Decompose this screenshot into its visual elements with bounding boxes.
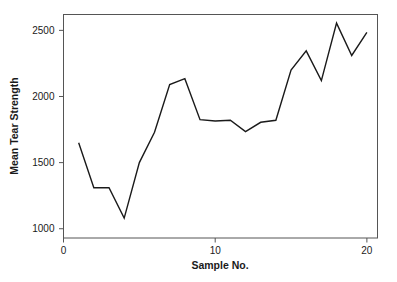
line-chart: 1000150020002500 01020 Sample No. Mean T…	[0, 0, 397, 282]
x-axis-tick-label: 10	[210, 245, 222, 256]
y-axis-tick-label: 2000	[32, 91, 55, 102]
x-axis-tick-label: 20	[361, 245, 373, 256]
y-axis-title: Mean Tear Strength	[8, 77, 20, 174]
x-axis-title: Sample No.	[191, 259, 248, 271]
y-axis-tick-label: 1000	[32, 223, 55, 234]
y-axis-tick-label: 1500	[32, 157, 55, 168]
x-axis-tick-label: 0	[61, 245, 67, 256]
y-axis-tick-label: 2500	[32, 25, 55, 36]
chart-background	[0, 0, 397, 282]
chart-screenshot: 1000150020002500 01020 Sample No. Mean T…	[0, 0, 397, 282]
